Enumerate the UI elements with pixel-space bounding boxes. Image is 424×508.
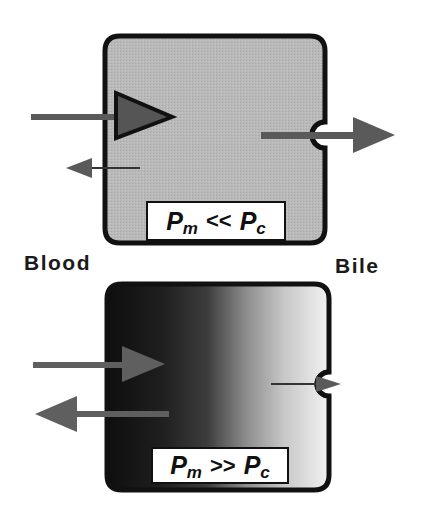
top-operator: << <box>206 210 232 232</box>
bottom-p1-sub: m <box>187 464 202 481</box>
top-efflux-bile-arrow-head <box>353 117 395 153</box>
top-uptake-arrow-shaft <box>31 114 121 120</box>
bottom-condition-label: Pm>>Pc <box>151 447 289 484</box>
blood-side-label: Blood <box>24 252 91 273</box>
top-p1-sub: m <box>183 220 198 237</box>
bottom-operator: >> <box>210 455 236 477</box>
bottom-p2-sub: c <box>260 464 269 481</box>
bottom-uptake-arrow-shaft <box>33 362 125 368</box>
bottom-efflux-blood-arrow-head <box>35 396 77 432</box>
bottom-efflux-blood-arrow-shaft <box>74 411 169 417</box>
bile-side-label: Bile <box>335 255 380 276</box>
top-p2: P <box>240 209 257 234</box>
top-p2-sub: c <box>256 220 265 237</box>
top-efflux-bile-arrow-shaft <box>261 132 355 139</box>
bottom-p1: P <box>170 453 187 478</box>
bottom-p2: P <box>244 453 261 478</box>
top-p1: P <box>166 209 183 234</box>
top-efflux-blood-arrow-head <box>66 158 92 178</box>
top-condition-label: Pm<<Pc <box>146 201 286 241</box>
